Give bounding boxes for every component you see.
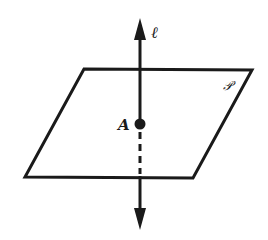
plane-P-label: 𝒫 [223, 78, 236, 93]
point-A [135, 119, 146, 130]
diagram-canvas: A ℓ 𝒫 [0, 0, 268, 240]
line-l-label: ℓ [151, 23, 158, 42]
arrow-down-icon [134, 208, 146, 230]
point-A-label: A [116, 116, 130, 134]
arrow-up-icon [134, 18, 146, 40]
